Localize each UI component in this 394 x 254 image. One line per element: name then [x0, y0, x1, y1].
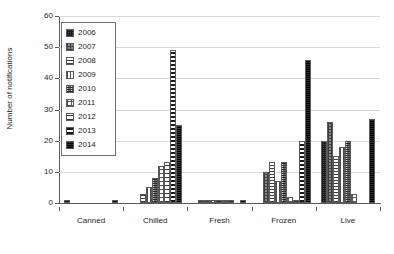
bar [112, 200, 118, 203]
bar-group [252, 16, 316, 203]
y-axis-tick-label: 50 [13, 43, 53, 51]
legend-item[interactable]: 2014 [66, 138, 111, 152]
y-axis-tick-label: 10 [13, 168, 53, 176]
bar [228, 200, 234, 203]
legend-swatch-icon [66, 141, 74, 149]
legend-item-label: 2013 [78, 127, 96, 135]
legend-swatch-icon [66, 43, 74, 51]
legend-item-label: 2010 [78, 85, 96, 93]
x-axis-tick [123, 207, 124, 211]
y-axis-tick-label: 40 [13, 74, 53, 82]
legend-item[interactable]: 2011 [66, 96, 111, 110]
x-axis-tick [316, 207, 317, 211]
y-axis-tick-label: 60 [13, 12, 53, 20]
legend-item[interactable]: 2009 [66, 68, 111, 82]
y-axis-tick-label: 0 [13, 199, 53, 207]
x-axis-category-label: Canned [59, 216, 123, 225]
legend-item[interactable]: 2012 [66, 110, 111, 124]
legend-item[interactable]: 2010 [66, 82, 111, 96]
legend-swatch-icon [66, 85, 74, 93]
legend-item-label: 2009 [78, 71, 96, 79]
legend-swatch-icon [66, 29, 74, 37]
bar-group [187, 16, 251, 203]
legend-item-label: 2008 [78, 57, 96, 65]
chart-figure: Number of notifications 0102030405060 Ca… [0, 0, 394, 254]
bar [240, 200, 246, 203]
legend-item-label: 2014 [78, 141, 96, 149]
legend-item[interactable]: 2008 [66, 54, 111, 68]
x-axis-labels: CannedChilledFreshFrozenLive [59, 207, 380, 227]
x-axis-tick [252, 207, 253, 211]
legend-item[interactable]: 2007 [66, 40, 111, 54]
y-axis-tick-label: 20 [13, 137, 53, 145]
legend-item[interactable]: 2013 [66, 124, 111, 138]
x-axis-category-label: Frozen [252, 216, 316, 225]
bar [351, 194, 357, 203]
x-axis-tick [59, 207, 60, 211]
x-axis-line [59, 203, 381, 204]
legend-item-label: 2007 [78, 43, 96, 51]
x-axis-category-label: Fresh [187, 216, 251, 225]
legend-item-label: 2011 [78, 99, 95, 107]
legend-swatch-icon [66, 57, 74, 65]
bar [176, 125, 182, 203]
y-axis-tick-label: 30 [13, 106, 53, 114]
legend-swatch-icon [66, 127, 74, 135]
legend-item-label: 2012 [78, 113, 96, 121]
x-axis-category-label: Live [316, 216, 380, 225]
chart-legend: 200620072008200920102011201220132014 [61, 22, 116, 156]
bar-group [123, 16, 187, 203]
legend-item-label: 2006 [78, 29, 96, 37]
x-axis-tick [380, 207, 381, 211]
legend-swatch-icon [66, 71, 74, 79]
legend-swatch-icon [66, 99, 74, 107]
y-axis-title: Number of notifications [5, 4, 14, 174]
legend-swatch-icon [66, 113, 74, 121]
bar-group [316, 16, 380, 203]
bar [305, 60, 311, 203]
legend-item[interactable]: 2006 [66, 26, 111, 40]
bar [369, 119, 375, 203]
bar [64, 200, 70, 203]
x-axis-tick [187, 207, 188, 211]
x-axis-category-label: Chilled [123, 216, 187, 225]
